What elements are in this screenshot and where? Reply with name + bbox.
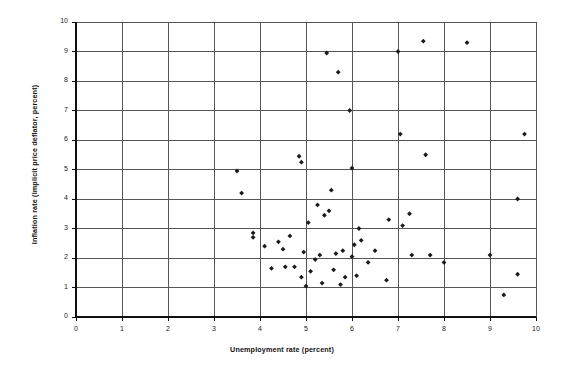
data-point [327, 208, 332, 213]
x-tick-label: 1 [112, 325, 132, 332]
data-point [384, 278, 389, 283]
data-point [292, 264, 297, 269]
data-point [297, 154, 302, 159]
data-point [357, 226, 362, 231]
y-tick-label: 6 [48, 135, 68, 142]
data-point [283, 264, 288, 269]
data-point [359, 238, 364, 243]
data-point [334, 251, 339, 256]
data-point [306, 220, 311, 225]
data-point [488, 253, 493, 258]
x-tick-label: 7 [388, 325, 408, 332]
data-point [409, 253, 414, 258]
x-axis-title: Unemployment rate (percent) [0, 345, 564, 354]
data-point [423, 152, 428, 157]
data-point [329, 188, 334, 193]
y-tick-label: 7 [48, 106, 68, 113]
data-point [251, 231, 256, 236]
y-tick-label: 9 [48, 47, 68, 54]
data-point [269, 266, 274, 271]
data-point [308, 269, 313, 274]
y-tick-label: 1 [48, 283, 68, 290]
data-point [343, 275, 348, 280]
data-point [239, 191, 244, 196]
x-tick-label: 4 [250, 325, 270, 332]
data-point [407, 211, 412, 216]
y-tick-label: 2 [48, 253, 68, 260]
x-tick-label: 8 [434, 325, 454, 332]
data-point [421, 39, 426, 44]
y-tick-label: 5 [48, 165, 68, 172]
y-tick-label: 10 [48, 17, 68, 24]
data-point [251, 235, 256, 240]
data-point [515, 272, 520, 277]
data-point [317, 253, 322, 258]
data-point [465, 40, 470, 45]
data-point [386, 217, 391, 222]
data-point [322, 213, 327, 218]
data-point [442, 260, 447, 265]
x-tick-label: 9 [480, 325, 500, 332]
y-tick-label: 4 [48, 194, 68, 201]
x-tick-label: 10 [526, 325, 546, 332]
data-point [396, 49, 401, 54]
data-point [398, 132, 403, 137]
y-tick-label: 0 [48, 312, 68, 319]
data-point [299, 160, 304, 165]
data-point [373, 248, 378, 253]
data-point [281, 247, 286, 252]
data-point [515, 197, 520, 202]
data-point [276, 239, 281, 244]
x-tick-label: 5 [296, 325, 316, 332]
data-point [338, 282, 343, 287]
data-point [347, 108, 352, 113]
y-tick-label: 3 [48, 224, 68, 231]
data-point [522, 132, 527, 137]
data-point [352, 242, 357, 247]
x-tick-label: 2 [158, 325, 178, 332]
data-point [331, 267, 336, 272]
x-tick-label: 0 [66, 325, 86, 332]
scatter-chart: 012345678910 012345678910 Unemployment r… [0, 0, 564, 370]
tick-marks [72, 22, 536, 321]
data-point [340, 248, 345, 253]
data-point [366, 260, 371, 265]
data-point [301, 250, 306, 255]
data-point [315, 203, 320, 208]
data-point [262, 244, 267, 249]
y-axis-title: Inflation rate (implicit price deflator,… [30, 25, 39, 305]
data-point [336, 70, 341, 75]
data-point [400, 223, 405, 228]
y-tick-label: 8 [48, 76, 68, 83]
x-tick-label: 6 [342, 325, 362, 332]
data-point [299, 275, 304, 280]
data-point [320, 281, 325, 286]
data-point [354, 273, 359, 278]
data-point [288, 233, 293, 238]
x-tick-label: 3 [204, 325, 224, 332]
data-point [428, 253, 433, 258]
data-point [501, 292, 506, 297]
plot-area [0, 0, 564, 370]
grid-lines [76, 22, 536, 317]
